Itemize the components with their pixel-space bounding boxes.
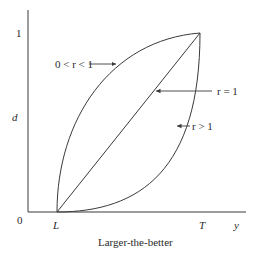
label-concave: 0 < r < 1 bbox=[55, 58, 93, 70]
caption: Larger-the-better bbox=[98, 236, 173, 248]
y-tick-one: 1 bbox=[16, 27, 22, 39]
x-tick-L: L bbox=[52, 219, 59, 231]
y-axis-label: d bbox=[12, 111, 18, 123]
label-linear: r = 1 bbox=[217, 85, 238, 97]
desirability-diagram: 0 < r < 1 r = 1 r > 1 1 d 0 L T y Larger… bbox=[0, 0, 260, 261]
x-tick-T: T bbox=[199, 219, 206, 231]
label-convex: r > 1 bbox=[192, 120, 213, 132]
x-axis-label: y bbox=[233, 219, 239, 231]
origin-label: 0 bbox=[17, 214, 23, 226]
